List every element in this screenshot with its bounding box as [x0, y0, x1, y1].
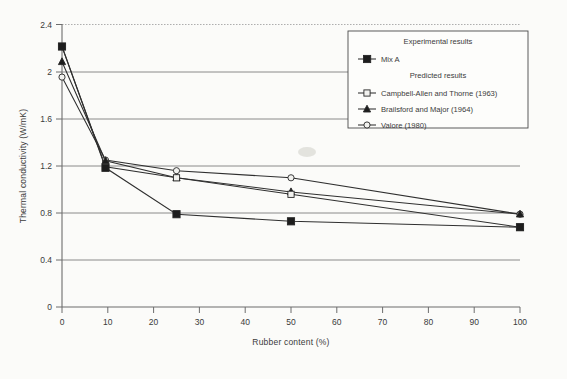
- legend-item-valore[interactable]: Valore (1980): [358, 121, 427, 130]
- x-tick-labels: 0 10 20 30 40 50 60 70 80 90 100: [60, 317, 528, 327]
- legend-heading-predicted: Predicted results: [410, 71, 467, 80]
- x-tick-label: 10: [103, 317, 113, 327]
- figure-canvas: 2.4 2 1.6 1.2 0.8 0.4 0 0 10 20 30 40 50…: [0, 0, 567, 379]
- filled-square-icon: [364, 55, 371, 62]
- x-tick-label: 20: [149, 317, 159, 327]
- legend-label: Valore (1980): [381, 121, 427, 130]
- y-tick-label: 1.2: [40, 161, 52, 171]
- legend-label: Brailsford and Major (1964): [381, 105, 473, 114]
- open-circle-icon: [364, 122, 370, 128]
- x-tick-label: 50: [286, 317, 296, 327]
- chart-legend[interactable]: Experimental results Mix A Predicted res…: [348, 31, 528, 130]
- y-axis-title: Thermal conductivity (W/mK): [18, 109, 28, 224]
- legend-heading-experimental: Experimental results: [404, 37, 473, 46]
- y-tick-label: 0.8: [40, 208, 52, 218]
- y-tick-labels: 2.4 2 1.6 1.2 0.8 0.4 0: [40, 20, 52, 313]
- y-tick-label: 2: [47, 67, 52, 77]
- x-tick-label: 70: [378, 317, 388, 327]
- x-axis-title: Rubber content (%): [252, 337, 329, 347]
- y-tick-label: 2.4: [40, 20, 52, 30]
- scan-artifact: [298, 147, 316, 157]
- y-tick-label: 0: [47, 302, 52, 312]
- y-tick-label: 1.6: [40, 114, 52, 124]
- x-tick-label: 80: [424, 317, 434, 327]
- x-tick-marks: [62, 307, 520, 313]
- y-tick-label: 0.4: [40, 255, 52, 265]
- x-tick-label: 0: [60, 317, 65, 327]
- x-tick-label: 30: [195, 317, 205, 327]
- line-chart: 2.4 2 1.6 1.2 0.8 0.4 0 0 10 20 30 40 50…: [0, 0, 567, 379]
- x-tick-label: 90: [469, 317, 479, 327]
- legend-label: Campbell-Allen and Thorne (1963): [381, 89, 498, 98]
- y-tick-marks: [56, 25, 62, 308]
- x-tick-label: 100: [513, 317, 527, 327]
- x-tick-label: 60: [332, 317, 342, 327]
- x-tick-label: 40: [240, 317, 250, 327]
- open-square-icon: [364, 90, 370, 96]
- legend-label: Mix A: [381, 55, 401, 64]
